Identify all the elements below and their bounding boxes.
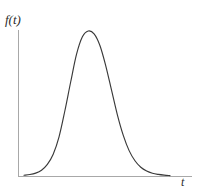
x-axis-label: t [181, 176, 184, 188]
figure-container: f(t) t [0, 0, 200, 193]
bell-curve-line [24, 31, 170, 176]
bell-curve-plot [0, 0, 200, 193]
y-axis-label: f(t) [5, 13, 21, 26]
